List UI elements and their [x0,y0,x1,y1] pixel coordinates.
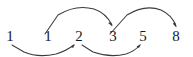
diagram-canvas: 1 1 2 3 5 8 [0,0,193,57]
arc-term3-to-term5 [82,44,141,55]
sequence-term-6: 8 [172,28,180,44]
arc-term1-to-term3 [12,44,75,55]
sequence-term-2: 1 [44,28,52,44]
arc-term3-to-term5-path [82,45,140,56]
sequence-term-5: 5 [139,28,147,44]
sequence-term-1: 1 [6,28,14,44]
sequence-term-3: 2 [75,28,83,44]
fibonacci-diagram: 1 1 2 3 5 8 [0,0,193,57]
arc-term1-to-term3-path [12,45,74,56]
arc-term4-to-term6-arrowhead [173,23,177,28]
sequence-term-4: 3 [109,28,117,44]
